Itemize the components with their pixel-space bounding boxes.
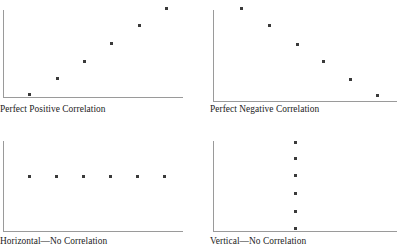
caption-perfect-positive: Perfect Positive Correlation (0, 104, 106, 115)
data-point (28, 175, 31, 178)
panel-vertical-no-correlation: Vertical—No Correlation (210, 130, 402, 250)
y-axis-horizontal-no-correlation (3, 141, 4, 231)
data-point (28, 93, 31, 96)
panel-perfect-negative: Perfect Negative Correlation (210, 0, 402, 118)
data-point (296, 43, 299, 46)
data-point (294, 157, 297, 160)
x-axis-vertical-no-correlation (213, 231, 397, 232)
y-axis-perfect-positive (3, 10, 4, 97)
data-point (322, 60, 325, 63)
data-point (376, 94, 379, 97)
data-point (136, 175, 139, 178)
correlation-scatterplot-figure: Perfect Positive Correlation Perfect Neg… (0, 0, 402, 250)
caption-perfect-negative: Perfect Negative Correlation (210, 104, 319, 115)
data-point (294, 227, 297, 230)
x-axis-perfect-negative (213, 101, 397, 102)
caption-horizontal-no-correlation: Horizontal—No Correlation (0, 236, 107, 247)
panel-perfect-positive: Perfect Positive Correlation (0, 0, 190, 118)
data-point (109, 175, 112, 178)
data-point (268, 24, 271, 27)
x-axis-perfect-positive (3, 97, 183, 98)
data-point (56, 77, 59, 80)
data-point (138, 24, 141, 27)
x-axis-horizontal-no-correlation (3, 231, 183, 232)
data-point (349, 78, 352, 81)
data-point (55, 175, 58, 178)
data-point (83, 60, 86, 63)
y-axis-perfect-negative (213, 10, 214, 101)
caption-vertical-no-correlation: Vertical—No Correlation (210, 236, 306, 247)
panel-horizontal-no-correlation: Horizontal—No Correlation (0, 130, 190, 250)
data-point (294, 210, 297, 213)
y-axis-vertical-no-correlation (213, 141, 214, 231)
data-point (110, 42, 113, 45)
data-point (82, 175, 85, 178)
data-point (163, 175, 166, 178)
data-point (294, 192, 297, 195)
data-point (294, 174, 297, 177)
data-point (294, 141, 297, 144)
data-point (240, 7, 243, 10)
data-point (165, 7, 168, 10)
